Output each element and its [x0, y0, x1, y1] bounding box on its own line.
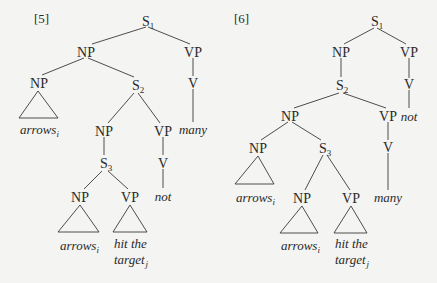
tree-5-leaf-target: targetj — [114, 252, 149, 269]
tree-5-node-v-mid: V — [158, 156, 168, 171]
tree-5-node-vp-low: VP — [121, 190, 139, 205]
tree-6-node-s3: S3 — [319, 141, 332, 158]
tree-5-leaf-many: many — [179, 122, 207, 137]
tree-5-node-v-top: V — [188, 76, 198, 91]
syntax-tree-figure: [5] S1 NP VP NP S2 V NP VP S3 — [0, 0, 437, 283]
tree-6-leaf-not: not — [401, 109, 418, 124]
tree-5-node-s2: S2 — [132, 78, 144, 95]
tree-5-node-np-low: NP — [71, 190, 89, 205]
tree-6-node-np-top: NP — [332, 45, 350, 60]
tree-6-triangle-arrows-top — [235, 156, 274, 184]
tree-6-leaf-hit-the: hit the — [335, 236, 368, 251]
tree-6-leaf-arrows-top: arrowsi — [236, 190, 275, 207]
tree-5-edges — [42, 27, 193, 189]
tree-6-triangle-arrows-low — [280, 206, 318, 233]
tree-6-leaf-target: targetj — [335, 252, 370, 269]
tree-5-triangle-arrows-top — [19, 91, 58, 118]
tree-6-leaf-arrows-low: arrowsi — [281, 238, 320, 255]
tree-6-triangle-hit-target — [334, 206, 367, 233]
tree-6-node-v-mid: V — [383, 140, 393, 155]
tree-5-leaf-hit-the: hit the — [114, 236, 147, 251]
tree-5-leaf-arrows-top: arrowsi — [20, 122, 59, 139]
tree-5-leaf-arrows-low: arrowsi — [60, 238, 99, 255]
tree-5-node-np-left: NP — [30, 76, 48, 91]
tree-6: [6] S1 NP VP S2 V not NP VP NP S3 V — [234, 11, 418, 269]
tree-5-triangle-arrows-low — [58, 205, 99, 232]
tree-6-node-s2: S2 — [336, 78, 348, 95]
tree-6-number: [6] — [234, 11, 249, 26]
tree-6-node-vp-low: VP — [342, 191, 360, 206]
tree-6-node-s1: S1 — [371, 14, 383, 31]
tree-5-triangle-hit-target — [113, 205, 147, 232]
tree-5-leaf-not: not — [155, 189, 172, 204]
tree-6-node-vp-top: VP — [400, 45, 418, 60]
tree-5-node-s1: S1 — [142, 14, 154, 31]
tree-5: [5] S1 NP VP NP S2 V NP VP S3 — [19, 11, 207, 269]
tree-6-node-np-mid: NP — [281, 109, 299, 124]
tree-6-node-vp-mid: VP — [379, 109, 397, 124]
tree-5-node-vp-top: VP — [184, 45, 202, 60]
tree-5-node-np-top: NP — [77, 45, 95, 60]
tree-5-node-vp-mid: VP — [154, 124, 172, 139]
tree-6-node-np-left: NP — [249, 141, 267, 156]
tree-5-number: [5] — [34, 11, 49, 26]
tree-6-leaf-many: many — [374, 190, 402, 205]
tree-6-node-np-low: NP — [293, 191, 311, 206]
tree-6-node-v-top: V — [404, 77, 414, 92]
tree-5-node-s3: S3 — [100, 156, 113, 173]
tree-5-node-np-mid: NP — [95, 124, 113, 139]
